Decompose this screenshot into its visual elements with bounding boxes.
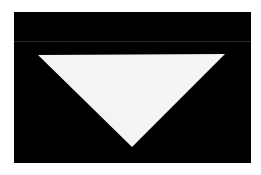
triangle — [38, 54, 225, 147]
inverted-triangle-shape — [0, 0, 261, 175]
